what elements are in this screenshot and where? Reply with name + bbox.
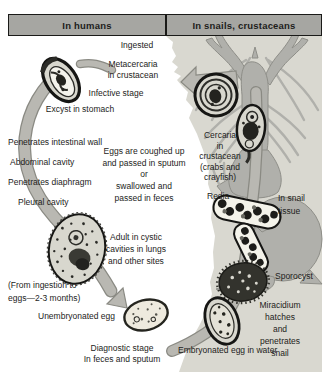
label-penetrates-wall: Penetrates intestinal wall — [8, 137, 102, 148]
label-sporocyst: Sporocyst — [275, 271, 313, 282]
label-cercaria: Cercaria in crustacean (crabs and crayfi… — [199, 130, 241, 183]
label-embryonated-egg: Embryonated egg in water — [178, 345, 277, 356]
label-diagnostic-stage: Diagnostic stage In feces and sputum — [84, 343, 161, 365]
unembryonated-egg-organism — [121, 295, 171, 335]
label-duration: (From ingestion to eggs—2-3 months) — [8, 279, 80, 305]
label-unembryonated-egg: Unembryonated egg — [38, 311, 115, 322]
label-abdominal-cavity: Abdominal cavity — [10, 157, 74, 168]
column-header-humans: In humans — [8, 14, 166, 36]
parasite-lifecycle-diagram: In humans In snails, crustaceans Ingeste… — [0, 0, 331, 383]
label-pleural-cavity: Pleural cavity — [18, 197, 69, 208]
label-metacercaria: Metacercaria in crustacean — [108, 59, 159, 80]
label-excyst-stomach: Excyst in stomach — [46, 104, 115, 115]
label-redia: Redia — [207, 191, 229, 202]
label-infective-stage: Infective stage — [89, 88, 144, 99]
label-ingested: Ingested — [121, 40, 154, 51]
label-penetrates-diaphragm: Penetrates diaphragm — [8, 177, 92, 188]
label-eggs-passed: Eggs are coughed up and passed in sputum… — [102, 146, 185, 205]
label-adult-cystic: Adult in cystic cavities in lungs and ot… — [106, 231, 166, 267]
column-header-snails: In snails, crustaceans — [166, 14, 322, 36]
label-in-snail-tissue: In snail tissue — [278, 192, 305, 218]
